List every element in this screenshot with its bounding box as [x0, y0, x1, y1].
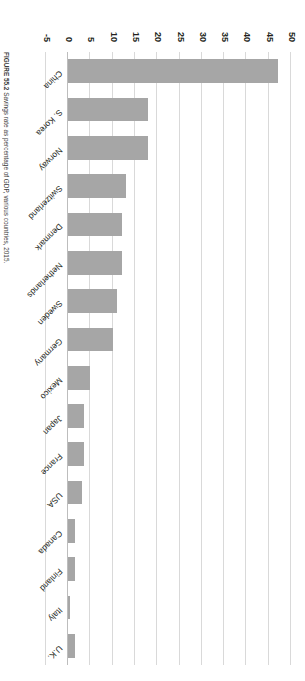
bar-u-k- [68, 634, 75, 658]
bar-netherlands [68, 251, 122, 275]
bar-italy [68, 596, 69, 620]
bar-denmark [68, 213, 122, 237]
tick-label-25: 25 [176, 32, 186, 42]
bar-france [68, 442, 84, 466]
bar-norway [68, 136, 148, 160]
tick-label-45: 45 [265, 32, 275, 42]
tick-label-10: 10 [109, 32, 119, 42]
bar-sweden [68, 289, 117, 313]
tick-label-35: 35 [220, 32, 230, 42]
bar-germany [68, 328, 113, 352]
tick-label-neg5: -5 [42, 34, 52, 42]
tick-label-0: 0 [64, 37, 74, 42]
tick-label-50: 50 [287, 32, 297, 42]
bar-canada [68, 519, 75, 543]
figure-number: FIGURE 55.2 [3, 52, 10, 90]
rotated-page-wrapper: ChinaS. KoreaNorwaySwitzerlandDenmarkNet… [0, 0, 305, 681]
bar-s-korea [68, 98, 148, 122]
bar-china [68, 59, 277, 83]
plot-area: ChinaS. KoreaNorwaySwitzerlandDenmarkNet… [46, 52, 291, 665]
tick-label-15: 15 [131, 32, 141, 42]
figure-container: ChinaS. KoreaNorwaySwitzerlandDenmarkNet… [0, 0, 305, 681]
tick-label-30: 30 [198, 32, 208, 42]
figure-caption-text: Savings rate as percentage of GDP, vario… [3, 92, 10, 263]
tick-label-40: 40 [243, 32, 253, 42]
bar-switzerland [68, 174, 126, 198]
bar-mexico [68, 366, 90, 390]
figure-caption: FIGURE 55.2 Savings rate as percentage o… [2, 52, 10, 673]
bar-series [46, 52, 291, 665]
bar-japan [68, 404, 84, 428]
bar-usa [68, 481, 81, 505]
tick-label-5: 5 [87, 37, 97, 42]
bar-finland [68, 557, 75, 581]
tick-label-20: 20 [153, 32, 163, 42]
